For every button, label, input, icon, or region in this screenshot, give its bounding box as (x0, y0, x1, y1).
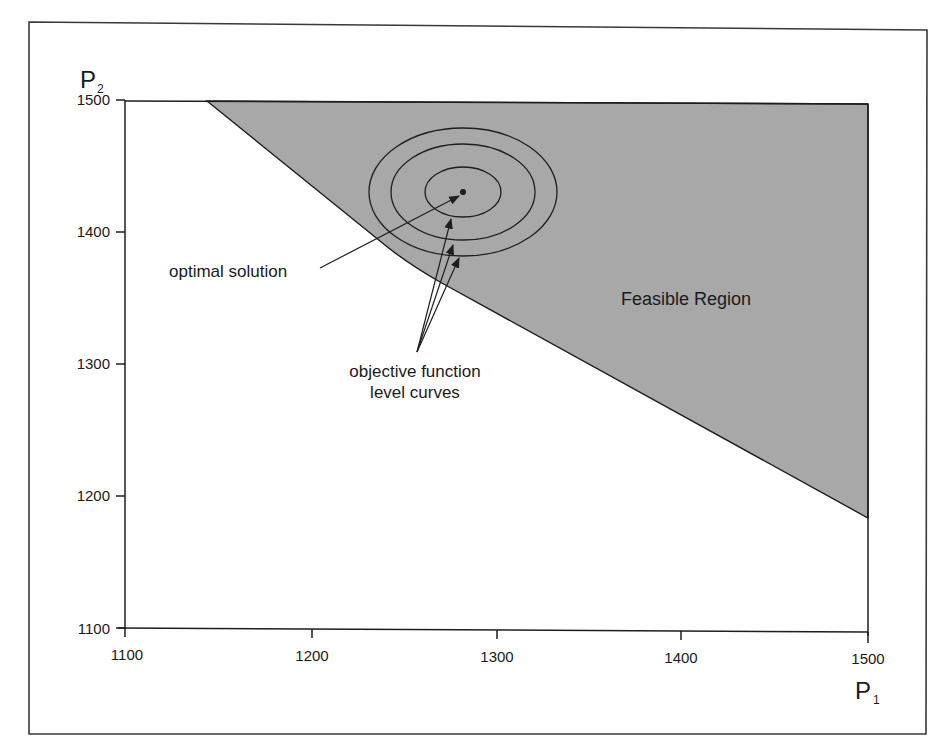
x-axis-title-main: P (855, 677, 871, 704)
y-axis-title-main: P (80, 66, 96, 93)
figure-svg: 1500 1400 1300 1200 1100 1100 1200 1300 … (0, 0, 944, 754)
x-tick-label: 1400 (664, 649, 697, 666)
y-tick-label: 1300 (77, 355, 110, 372)
y-tick-label: 1500 (77, 91, 110, 108)
feasible-region-label: Feasible Region (621, 289, 751, 309)
x-tick-label: 1100 (111, 646, 143, 663)
y-axis-title: P 2 (80, 66, 104, 96)
optimal-point (460, 189, 466, 195)
y-tick-label: 1400 (77, 223, 110, 240)
x-axis-title-sub: 1 (873, 693, 880, 707)
level-curves-label-line1: objective function (349, 362, 480, 381)
x-axis (118, 628, 868, 632)
x-axis-title: P 1 (855, 677, 880, 707)
x-tick-label: 1500 (851, 650, 884, 667)
x-tick-label: 1200 (295, 647, 328, 664)
optimal-solution-label: optimal solution (169, 262, 287, 281)
y-axis-title-sub: 2 (97, 82, 104, 96)
figure: 1500 1400 1300 1200 1100 1100 1200 1300 … (0, 0, 944, 754)
feasible-region (207, 101, 868, 518)
x-tick-label: 1300 (480, 648, 513, 665)
level-curves-label-line2: level curves (370, 383, 460, 402)
y-tick-label: 1100 (78, 620, 110, 637)
y-tick-label: 1200 (77, 487, 110, 504)
